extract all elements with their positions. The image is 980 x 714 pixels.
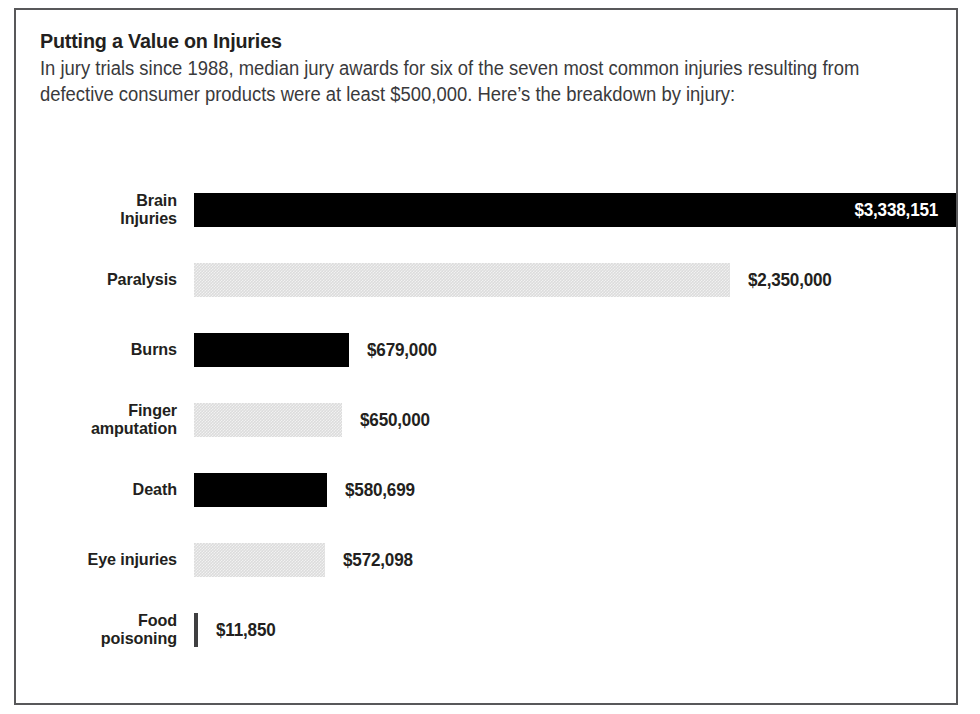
bar-category-label: Death — [24, 481, 177, 499]
bar-fill — [194, 263, 730, 297]
bar-row: Paralysis$2,350,000 — [16, 263, 956, 297]
bar-fill — [194, 333, 349, 367]
bar-fill — [194, 403, 342, 437]
chart-subtitle: In jury trials since 1988, median jury a… — [40, 56, 872, 107]
bar-value-label: $2,350,000 — [748, 270, 832, 291]
bar-track: $3,338,151 — [194, 193, 952, 227]
bar-row: Eye injuries$572,098 — [16, 543, 956, 577]
bar-track: $2,350,000 — [194, 263, 952, 297]
bar-value-label: $679,000 — [367, 340, 437, 361]
bar-value-label: $3,338,151 — [854, 200, 938, 221]
bar-fill — [194, 193, 956, 227]
bar-row: Burns$679,000 — [16, 333, 956, 367]
bar-row: Death$580,699 — [16, 473, 956, 507]
bar-track: $580,699 — [194, 473, 952, 507]
chart-header: Putting a Value on Injuries In jury tria… — [40, 28, 938, 107]
bar-category-label: Fingeramputation — [24, 402, 177, 438]
bar-track: $572,098 — [194, 543, 952, 577]
bar-row: Foodpoisoning$11,850 — [16, 613, 956, 647]
page-title: Putting a Value on Injuries — [40, 28, 884, 54]
bar-fill — [194, 473, 327, 507]
bar-category-label: Paralysis — [24, 271, 177, 289]
bar-value-label: $650,000 — [360, 410, 430, 431]
bar-value-label: $572,098 — [343, 550, 413, 571]
bar-chart-plot: BrainInjuries$3,338,151Paralysis$2,350,0… — [16, 185, 956, 703]
bar-category-label: Foodpoisoning — [24, 612, 177, 648]
bar-track: $11,850 — [194, 613, 952, 647]
chart-figure: Putting a Value on Injuries In jury tria… — [14, 8, 958, 705]
bar-fill — [194, 543, 325, 577]
bar-row: BrainInjuries$3,338,151 — [16, 193, 956, 227]
bar-row: Fingeramputation$650,000 — [16, 403, 956, 437]
bar-fill — [194, 613, 198, 647]
bar-category-label: Eye injuries — [24, 551, 177, 569]
bar-track: $679,000 — [194, 333, 952, 367]
bar-category-label: Burns — [24, 341, 177, 359]
bar-track: $650,000 — [194, 403, 952, 437]
bar-value-label: $11,850 — [216, 620, 276, 641]
bar-category-label: BrainInjuries — [24, 192, 177, 228]
bar-value-label: $580,699 — [345, 480, 415, 501]
